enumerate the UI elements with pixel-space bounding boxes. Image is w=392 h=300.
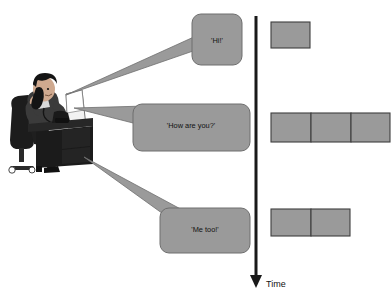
packet-segment[interactable] bbox=[271, 209, 311, 236]
packet-segment[interactable] bbox=[351, 113, 390, 142]
bubble-tail-me-too bbox=[84, 157, 188, 216]
speech-bubble-hi[interactable]: 'Hi!' bbox=[192, 14, 242, 65]
time-axis-label: Time bbox=[266, 279, 286, 289]
diagram-canvas: 'Hi!' 'How are you?' 'Me too!' Time bbox=[0, 0, 392, 300]
speech-bubble-hi-label: 'Hi!' bbox=[211, 36, 223, 45]
speech-bubble-how-are-you[interactable]: 'How are you?' bbox=[133, 104, 250, 151]
packet-segment[interactable] bbox=[271, 113, 311, 142]
speech-bubble-me-too[interactable]: 'Me too!' bbox=[160, 208, 250, 253]
packet-segment[interactable] bbox=[311, 209, 350, 236]
bubble-tail-hi bbox=[66, 36, 196, 95]
time-axis-arrowhead bbox=[250, 275, 262, 288]
packet-segment[interactable] bbox=[311, 113, 351, 142]
speech-bubble-how-are-you-label: 'How are you?' bbox=[167, 121, 216, 130]
speech-bubble-me-too-label: 'Me too!' bbox=[191, 225, 219, 234]
packet-row-3 bbox=[271, 209, 350, 236]
packet-row-1 bbox=[271, 22, 310, 48]
packet-row-2 bbox=[271, 113, 390, 142]
time-axis: Time bbox=[250, 16, 286, 289]
packet-segment[interactable] bbox=[271, 22, 310, 48]
person-on-phone-illustration bbox=[9, 73, 93, 173]
